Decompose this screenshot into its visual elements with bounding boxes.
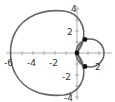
y-label-2: 2: [67, 27, 73, 37]
x-label-m2: -2: [49, 58, 58, 68]
y-label-m2: -2: [62, 72, 71, 82]
y-label-m4: -4: [64, 93, 73, 102]
x-label-m6: -6: [4, 58, 13, 68]
x-label-m4: -4: [27, 58, 36, 68]
x-label-2: 2: [95, 62, 101, 72]
axes: [6, 6, 112, 100]
y-label-4: 4: [71, 4, 77, 14]
polar-graph: -6 -4 -2 2 4 2 -2 -4: [0, 0, 115, 102]
